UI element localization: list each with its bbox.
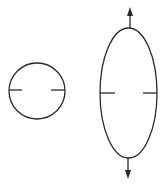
arrow-down-icon: [125, 170, 131, 179]
tension-arrows: [125, 7, 133, 179]
deformed-ellipse: [100, 28, 157, 158]
arrow-up-icon: [127, 7, 133, 16]
circle-outline: [9, 63, 65, 119]
diagram-canvas: [0, 0, 167, 189]
undeformed-circle: [9, 63, 65, 119]
